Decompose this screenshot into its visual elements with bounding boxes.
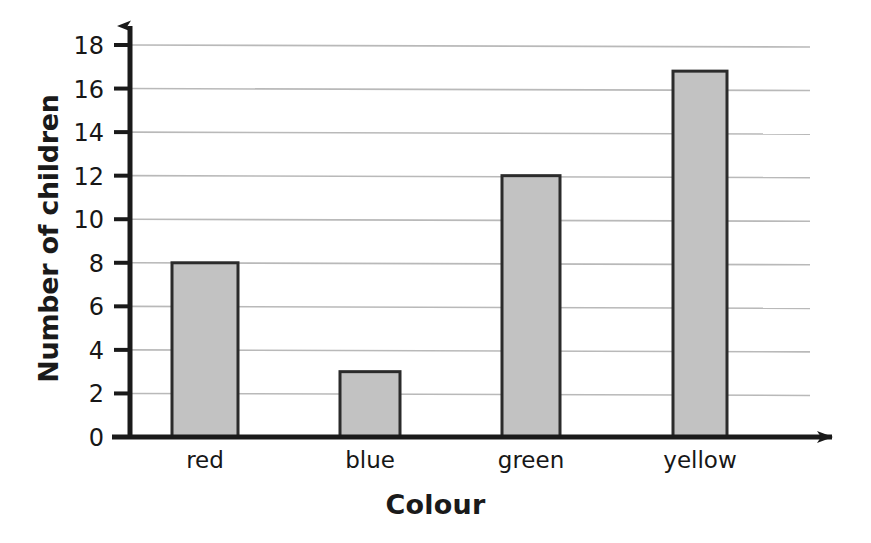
bar xyxy=(172,263,238,437)
plot-area: 024681012141618 redbluegreenyellow xyxy=(0,0,871,543)
x-axis-category-label: blue xyxy=(345,447,395,473)
y-axis-tick-label: 10 xyxy=(73,206,104,234)
bars-group xyxy=(172,71,727,437)
y-axis-tick-label: 4 xyxy=(89,337,104,365)
bar-chart: Number of children Colour 02468101214161… xyxy=(0,0,871,543)
y-axis-tick-label: 12 xyxy=(73,163,104,191)
y-axis-tick-label: 2 xyxy=(89,380,104,408)
y-axis-tick-label: 0 xyxy=(89,424,104,452)
y-axis-tick-labels: 024681012141618 xyxy=(73,32,104,452)
x-axis-category-labels: redbluegreenyellow xyxy=(186,447,737,473)
bar xyxy=(673,71,727,437)
bar xyxy=(340,372,400,437)
y-axis-tick-label: 8 xyxy=(89,250,104,278)
y-axis-tick-label: 6 xyxy=(89,293,104,321)
bar xyxy=(502,176,560,437)
y-axis-tick-label: 14 xyxy=(73,119,104,147)
x-axis-category-label: yellow xyxy=(663,447,736,473)
y-axis-tick-label: 16 xyxy=(73,76,104,104)
gridline xyxy=(130,45,810,47)
x-axis-category-label: green xyxy=(498,447,564,473)
y-axis-tick-label: 18 xyxy=(73,32,104,60)
x-axis-category-label: red xyxy=(186,447,224,473)
